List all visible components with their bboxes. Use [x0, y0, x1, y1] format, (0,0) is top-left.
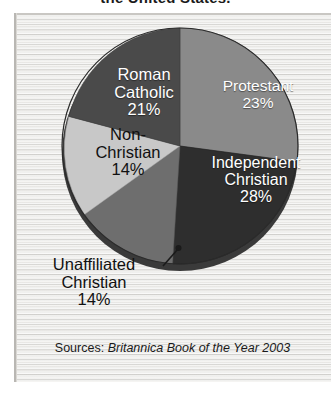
source-line: Sources: Britannica Book of the Year 200…	[14, 341, 331, 355]
pie-label-independent-christian-percent: 28%	[194, 188, 318, 205]
pie-label-protestant-line1: Protestant	[206, 78, 310, 95]
pie-label-protestant-percent: 23%	[206, 95, 310, 112]
pie-label-non-christian-percent: 14%	[82, 161, 174, 179]
pie-label-independent-christian-line1: Independent	[194, 154, 318, 171]
figure-container: the United States.	[0, 0, 331, 395]
pie-label-unaffiliated-christian: Unaffiliated Christian 14%	[26, 256, 162, 309]
source-label: Sources:	[55, 341, 104, 355]
pie-label-protestant: Protestant 23%	[206, 78, 310, 111]
pie-label-independent-christian-line2: Christian	[194, 171, 318, 188]
pie-label-unaffiliated-christian-line1: Unaffiliated	[26, 256, 162, 274]
pie-label-roman-catholic-line1: Roman	[96, 66, 192, 84]
pie-label-non-christian: Non- Christian 14%	[82, 126, 174, 179]
figure-title-truncated: the United States.	[0, 0, 331, 13]
source-title: Britannica Book of the Year 2003	[108, 341, 291, 355]
figure-title-text: the United States.	[0, 0, 331, 6]
pie-label-non-christian-line2: Christian	[82, 144, 174, 162]
leader-dot-unaffiliated	[176, 245, 182, 251]
pie-label-unaffiliated-christian-line2: Christian	[26, 274, 162, 292]
pie-label-unaffiliated-christian-percent: 14%	[26, 291, 162, 309]
pie-label-roman-catholic: Roman Catholic 21%	[96, 66, 192, 119]
pie-label-non-christian-line1: Non-	[82, 126, 174, 144]
pie-label-roman-catholic-line2: Catholic	[96, 84, 192, 102]
pie-label-independent-christian: Independent Christian 28%	[194, 154, 318, 205]
pie-label-roman-catholic-percent: 21%	[96, 101, 192, 119]
